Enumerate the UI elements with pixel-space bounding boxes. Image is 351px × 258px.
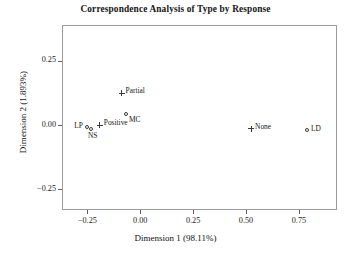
y-tick-mark <box>58 189 62 190</box>
y-tick-label: −0.25 <box>16 184 56 193</box>
x-tick-mark <box>193 210 194 214</box>
y-tick-mark <box>58 61 62 62</box>
data-point-label: None <box>255 122 271 131</box>
x-tick-mark <box>246 210 247 214</box>
x-tick-mark <box>140 210 141 214</box>
x-tick-label: 0.00 <box>120 216 160 225</box>
x-tick-label: 0.25 <box>173 216 213 225</box>
y-tick-mark <box>58 125 62 126</box>
x-tick-label: −0.25 <box>67 216 107 225</box>
circle-marker-icon <box>305 128 309 132</box>
data-point-label: Positive <box>104 118 128 127</box>
data-point-label: Partial <box>126 86 145 95</box>
plus-marker-icon <box>248 126 254 132</box>
data-point-label: LD <box>311 124 321 133</box>
x-tick-label: 0.50 <box>226 216 266 225</box>
plot-area: LPNSMCLDPositivePartialNone <box>62 25 337 210</box>
circle-marker-icon <box>124 112 128 116</box>
plus-marker-icon <box>97 122 103 128</box>
data-point-label: NS <box>88 131 97 140</box>
correspondence-analysis-figure: Correspondence Analysis of Type by Respo… <box>0 0 351 258</box>
page-title: Correspondence Analysis of Type by Respo… <box>0 4 351 14</box>
data-point-label: MC <box>129 115 141 124</box>
x-tick-mark <box>299 210 300 214</box>
x-tick-mark <box>87 210 88 214</box>
plus-marker-icon <box>119 90 125 96</box>
data-point-label: LP <box>74 121 83 130</box>
y-axis-title: Dimension 2 (1.893%) <box>18 42 28 182</box>
x-axis-title: Dimension 1 (98.11%) <box>0 233 351 243</box>
x-tick-label: 0.75 <box>279 216 319 225</box>
